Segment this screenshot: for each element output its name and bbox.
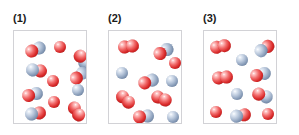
- particle-atom-blue: [167, 111, 179, 123]
- atom-red: [125, 39, 140, 54]
- particle-atom-blue: [166, 75, 178, 87]
- particle-atom-red: [210, 106, 222, 118]
- particle-atom-red: [48, 96, 60, 108]
- particle-diatomic-blue-red: [25, 63, 48, 79]
- atom-red: [219, 70, 233, 84]
- particle-atom-blue: [116, 67, 128, 79]
- molecular-diagram-figure: (1)(2)(3): [0, 0, 299, 135]
- particle-atom-red: [47, 75, 59, 87]
- panel-3: (3): [203, 12, 277, 124]
- panel-box: [203, 30, 277, 124]
- panel-label: (3): [203, 12, 216, 24]
- particle-diatomic-red-red: [149, 89, 173, 109]
- atom-blue: [116, 67, 128, 79]
- particle-atom-red: [54, 41, 66, 53]
- atom-blue: [231, 88, 243, 100]
- panel-label: (2): [108, 12, 121, 24]
- particle-atom-blue: [231, 88, 243, 100]
- particle-diatomic-red-blue: [249, 65, 273, 83]
- particle-atom-blue: [236, 54, 248, 66]
- particle-diatomic-blue-red: [252, 37, 277, 59]
- particle-diatomic-blue-red: [229, 107, 252, 123]
- particle-diatomic-red-red: [113, 88, 137, 112]
- atom-blue: [167, 111, 179, 123]
- particle-diatomic-red-blue: [21, 86, 45, 104]
- particle-diatomic-red-red: [117, 39, 140, 55]
- particle-diatomic-red-red: [65, 99, 87, 124]
- atom-red: [48, 96, 60, 108]
- atom-red: [47, 75, 59, 87]
- particle-diatomic-red-blue: [23, 40, 47, 60]
- particle-atom-red: [169, 57, 181, 69]
- atom-blue: [166, 75, 178, 87]
- particle-diatomic-blue-red: [24, 106, 47, 122]
- atom-red: [169, 57, 181, 69]
- particle-atom-blue: [72, 84, 84, 96]
- particle-diatomic-red-blue: [250, 86, 274, 105]
- panel-label: (1): [13, 12, 26, 24]
- atom-blue: [72, 84, 84, 96]
- particle-diatomic-red-red: [209, 38, 232, 55]
- particle-diatomic-red-blue: [136, 72, 160, 91]
- panel-1: (1): [13, 12, 87, 124]
- atom-red: [54, 41, 66, 53]
- particle-diatomic-red-blue: [132, 109, 154, 124]
- particle-diatomic-red-red: [211, 70, 233, 85]
- panel-box: [108, 30, 182, 124]
- panel-box: [13, 30, 87, 124]
- atom-red: [210, 106, 222, 118]
- atom-blue: [236, 54, 248, 66]
- atom-red: [262, 108, 274, 120]
- particle-atom-red: [262, 108, 274, 120]
- panel-2: (2): [108, 12, 182, 124]
